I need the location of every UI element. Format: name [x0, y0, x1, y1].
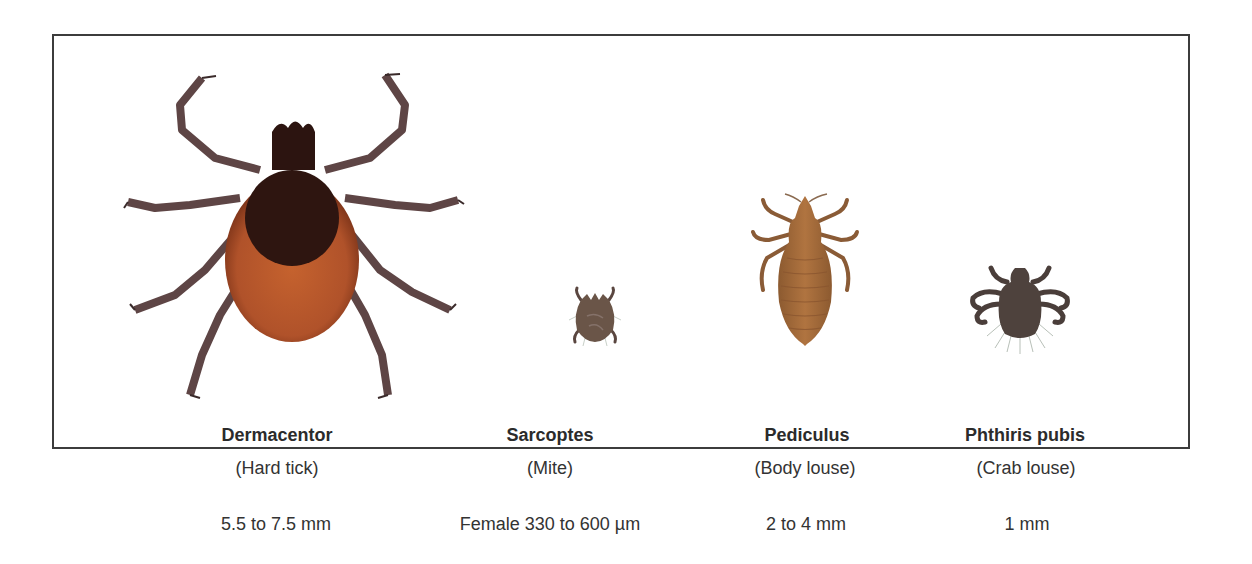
- specimen-name-phthiris: Phthiris pubis: [965, 425, 1085, 446]
- size-dermacentor: 5.5 to 7.5 mm: [221, 514, 331, 535]
- body-louse-icon: [745, 192, 865, 347]
- common-name-dermacentor: (Hard tick): [235, 458, 318, 479]
- common-name-phthiris: (Crab louse): [976, 458, 1075, 479]
- tick-icon: [120, 70, 465, 405]
- specimen-name-sarcoptes: Sarcoptes: [506, 425, 593, 446]
- phthiris-illustration: [965, 262, 1075, 354]
- common-name-pediculus: (Body louse): [754, 458, 855, 479]
- size-pediculus: 2 to 4 mm: [766, 514, 846, 535]
- crab-louse-icon: [965, 262, 1075, 354]
- size-sarcoptes: Female 330 to 600 µm: [460, 514, 640, 535]
- common-name-sarcoptes: (Mite): [527, 458, 573, 479]
- size-phthiris: 1 mm: [1005, 514, 1050, 535]
- mite-icon: [565, 286, 625, 348]
- pediculus-illustration: [745, 192, 865, 347]
- sarcoptes-illustration: [565, 286, 625, 348]
- dermacentor-illustration: [120, 70, 465, 405]
- specimen-name-pediculus: Pediculus: [764, 425, 849, 446]
- specimen-name-dermacentor: Dermacentor: [221, 425, 332, 446]
